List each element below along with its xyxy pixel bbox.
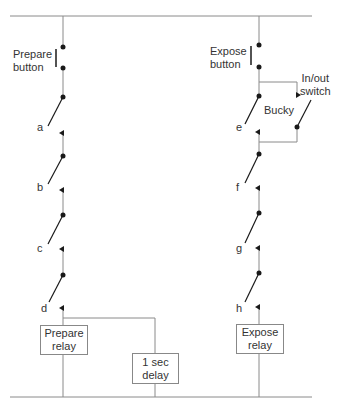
switch-c-blade <box>48 215 63 244</box>
box-line: relay <box>242 339 279 352</box>
expose-button-contact-dot <box>257 65 262 70</box>
box-line: Prepare <box>44 327 83 340</box>
switch-d-contact-arrow <box>59 305 64 311</box>
prepare-button-label: Prepare button <box>13 48 52 74</box>
label-line: button <box>13 61 52 74</box>
label-line: Expose <box>210 45 247 58</box>
switch-b-contact-arrow <box>59 187 64 193</box>
expose-relay-box: Expose relay <box>236 324 284 354</box>
inout-switch-blade <box>297 100 311 127</box>
label-line: switch <box>300 85 331 98</box>
switch-g-label: g <box>236 242 242 255</box>
switch-a-label: a <box>37 121 43 134</box>
inout-switch-label: In/out switch <box>300 72 331 98</box>
box-line: Expose <box>242 326 279 339</box>
prepare-relay-box: Prepare relay <box>40 325 88 355</box>
switch-g-contact-arrow <box>255 245 260 251</box>
bucky-label: Bucky <box>264 104 294 117</box>
bucky-loop-wire <box>259 82 297 95</box>
switch-h-contact-arrow <box>255 304 260 310</box>
switch-a-blade <box>48 97 63 126</box>
label-line: Prepare <box>13 48 52 61</box>
expose-button-label: Expose button <box>210 45 247 71</box>
box-line: delay <box>142 369 168 382</box>
switch-f-contact-arrow <box>255 185 260 191</box>
switch-d-blade <box>49 275 63 302</box>
switch-c-contact-arrow <box>59 246 64 252</box>
switch-f-label: f <box>236 181 239 194</box>
switch-a-contact-arrow <box>59 130 64 136</box>
box-line: 1 sec <box>142 356 168 369</box>
switch-h-label: h <box>236 302 242 315</box>
switch-h-blade <box>245 273 259 302</box>
one-sec-delay-box: 1 sec delay <box>132 353 179 384</box>
prepare-button-contact-dot <box>61 45 66 50</box>
switch-e-label: e <box>236 121 242 134</box>
switch-d-label: d <box>41 302 47 315</box>
prepare-button-contact-dot <box>61 66 66 71</box>
switch-b-blade <box>48 156 63 184</box>
switch-f-blade <box>245 154 259 183</box>
box-line: relay <box>44 340 83 353</box>
expose-button-contact-dot <box>257 43 262 48</box>
label-line: In/out <box>300 72 331 85</box>
bucky-loop-wire <box>259 127 297 142</box>
label-line: button <box>210 58 247 71</box>
switch-g-blade <box>245 213 259 243</box>
switch-b-label: b <box>37 181 43 194</box>
switch-c-label: c <box>37 242 43 255</box>
switch-e-blade <box>245 96 259 124</box>
switch-e-contact-arrow <box>255 129 260 135</box>
